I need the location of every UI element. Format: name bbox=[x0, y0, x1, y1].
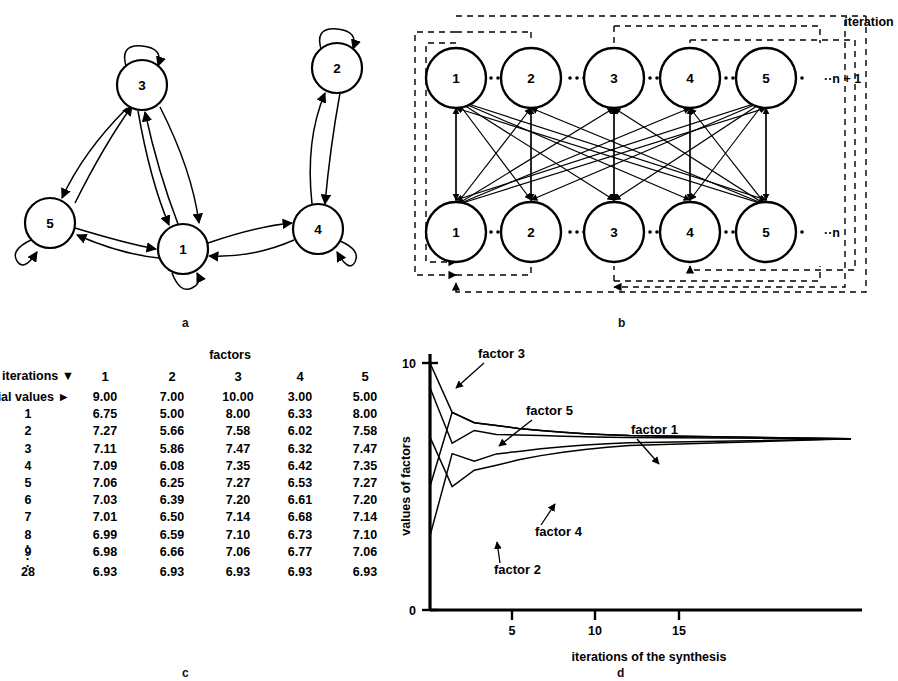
chart-series-group bbox=[430, 363, 851, 536]
node-b-bottom-3-label: 3 bbox=[610, 225, 618, 240]
table-cell: 7.14 bbox=[343, 510, 387, 524]
chart-annotation-leader bbox=[499, 420, 532, 446]
panel-label-d: d bbox=[617, 666, 624, 680]
table-cell: 7.27 bbox=[343, 476, 387, 490]
panel-b-svg: 1 2 3 4 5 1 2 3 4 5 bbox=[400, 0, 898, 335]
table-group-header-factors: factors bbox=[195, 348, 265, 362]
table-column-header-3: 3 bbox=[216, 369, 260, 384]
table-cell: 5.00 bbox=[150, 407, 194, 421]
feedback-frame-outer-right bbox=[614, 20, 845, 287]
table-cell: 5.86 bbox=[150, 442, 194, 456]
table-cell: 6.59 bbox=[150, 528, 194, 542]
table-cell: 8.00 bbox=[343, 407, 387, 421]
table-row-label: 4 bbox=[6, 459, 50, 473]
node-b-bottom-1-label: 1 bbox=[452, 225, 460, 240]
x-ticklabel-10: 10 bbox=[588, 624, 602, 638]
edge-4-to-1 bbox=[209, 240, 294, 256]
self-loop-4 bbox=[337, 241, 356, 266]
table-cell: 5.00 bbox=[343, 390, 387, 404]
chart-line-factor-4 bbox=[430, 439, 851, 536]
table-cell: 6.93 bbox=[83, 565, 127, 579]
table-cell: 6.93 bbox=[150, 565, 194, 579]
panel-b-top-row: 1 2 3 4 5 bbox=[426, 48, 796, 108]
table-cell: 7.00 bbox=[150, 390, 194, 404]
chart-xlabel: iterations of the synthesis bbox=[572, 650, 727, 664]
table-cell: 7.09 bbox=[83, 459, 127, 473]
table-cell: 6.98 bbox=[83, 545, 127, 559]
self-loop-5 bbox=[15, 240, 37, 265]
table-row-label: 1 bbox=[6, 407, 50, 421]
panel-b-row-label-bottom: ··n bbox=[824, 226, 840, 240]
table-cell: 6.93 bbox=[216, 565, 260, 579]
figure-root: 1 2 3 4 5 a bbox=[0, 0, 898, 681]
chart-annotation-factor-1: factor 1 bbox=[631, 422, 678, 437]
table-cell: 6.61 bbox=[278, 493, 322, 507]
table-cell: 5.66 bbox=[150, 424, 194, 438]
table-cell: 7.35 bbox=[343, 459, 387, 473]
table-row-label: 7 bbox=[6, 510, 50, 524]
edge-3-to-5 bbox=[62, 108, 127, 198]
chart-annotation-factor-5: factor 5 bbox=[526, 403, 573, 418]
chart-annotation-factor-3: factor 3 bbox=[478, 346, 525, 361]
table-cell: 6.39 bbox=[150, 493, 194, 507]
table-column-header-2: 2 bbox=[150, 369, 194, 384]
table-cell: 6.73 bbox=[278, 528, 322, 542]
node-b-bottom-2-label: 2 bbox=[527, 225, 535, 240]
panel-c-table: factors iterations ▼ 1 2 3 4 5 itial val… bbox=[0, 336, 400, 681]
table-cell: 6.93 bbox=[343, 565, 387, 579]
table-cell: 6.75 bbox=[83, 407, 127, 421]
table-cell: 6.33 bbox=[278, 407, 322, 421]
node-2-label: 2 bbox=[333, 61, 341, 76]
table-cell: 6.08 bbox=[150, 459, 194, 473]
chart-line-factor-2 bbox=[430, 437, 851, 486]
self-loop-1 bbox=[172, 273, 199, 289]
chart-ylabel: values of factors bbox=[399, 436, 413, 535]
node-b-bottom-4-label: 4 bbox=[686, 225, 694, 240]
chart-tick-labels: 10 0 5 10 15 bbox=[402, 357, 686, 638]
table-column-header-5: 5 bbox=[343, 369, 387, 384]
table-cell: 6.50 bbox=[150, 510, 194, 524]
panel-a-state-graph: 1 2 3 4 5 a bbox=[0, 0, 400, 335]
table-cell: 6.32 bbox=[278, 442, 322, 456]
node-b-bottom-5-label: 5 bbox=[762, 225, 770, 240]
table-cell: 6.02 bbox=[278, 424, 322, 438]
table-cell: 6.77 bbox=[278, 545, 322, 559]
panel-d-convergence-chart: 10 0 5 10 15 factor 3factor 5factor 1fac… bbox=[396, 336, 898, 681]
table-cell: 7.47 bbox=[343, 442, 387, 456]
table-cell: 7.20 bbox=[343, 493, 387, 507]
edge-b-t1-b4 bbox=[456, 100, 690, 200]
node-1-label: 1 bbox=[179, 242, 187, 257]
table-cell: 7.10 bbox=[216, 528, 260, 542]
node-b-top-4-label: 4 bbox=[686, 71, 694, 86]
table-cell: 7.11 bbox=[83, 442, 127, 456]
table-column-header-4: 4 bbox=[278, 369, 322, 384]
x-ticklabel-15: 15 bbox=[672, 624, 686, 638]
edge-2-to-4 bbox=[325, 93, 340, 204]
edge-b-b1-t2 bbox=[456, 108, 531, 205]
table-cell: 6.42 bbox=[278, 459, 322, 473]
table-row-label: 5 bbox=[6, 476, 50, 490]
table-cell: 7.06 bbox=[216, 545, 260, 559]
table-cell: 6.68 bbox=[278, 510, 322, 524]
table-cell: 6.66 bbox=[150, 545, 194, 559]
chart-annotation-factor-2: factor 2 bbox=[494, 562, 541, 577]
chart-axes bbox=[422, 354, 862, 620]
node-5-label: 5 bbox=[46, 216, 54, 231]
table-cell: 7.20 bbox=[216, 493, 260, 507]
panel-a-svg: 1 2 3 4 5 bbox=[0, 0, 400, 335]
table-cell: 7.27 bbox=[83, 424, 127, 438]
y-ticklabel-0: 0 bbox=[409, 604, 416, 618]
table-cell: 7.14 bbox=[216, 510, 260, 524]
table-cell: 7.01 bbox=[83, 510, 127, 524]
table-cell: 9.00 bbox=[83, 390, 127, 404]
table-column-header-1: 1 bbox=[83, 369, 127, 384]
edge-4-to-2 bbox=[310, 93, 325, 204]
edge-b-b5-t4 bbox=[690, 108, 766, 205]
node-b-top-3-label: 3 bbox=[610, 71, 618, 86]
table-cell: 6.53 bbox=[278, 476, 322, 490]
table-cell: 7.03 bbox=[83, 493, 127, 507]
table-cell: 8.00 bbox=[216, 407, 260, 421]
feedback-bottom-3-5 bbox=[614, 266, 820, 281]
x-ticklabel-5: 5 bbox=[509, 624, 516, 638]
table-row-label: 6 bbox=[6, 493, 50, 507]
